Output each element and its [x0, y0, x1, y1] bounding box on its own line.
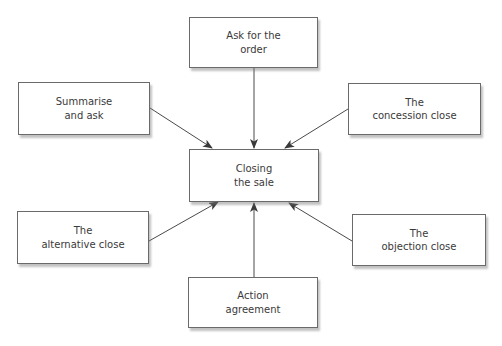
node-label-line: alternative close [41, 238, 124, 252]
node-objection-close: The objection close [352, 214, 486, 266]
node-concession-close: The concession close [348, 83, 481, 135]
node-label-line: Ask for the [226, 29, 280, 43]
node-label-line: Closing [236, 162, 273, 176]
node-label-line: The [405, 96, 424, 110]
node-action-agreement: Action agreement [188, 277, 318, 328]
node-label-line: order [240, 43, 267, 57]
node-label-line: The [410, 227, 429, 241]
closing-techniques-diagram: Closing the sale Ask for the order Summa… [0, 0, 502, 346]
node-label-line: concession close [372, 109, 456, 123]
node-label-line: Action [237, 289, 268, 303]
node-label-line: Summarise [56, 95, 113, 109]
node-alternative-close: The alternative close [17, 211, 149, 264]
arrow-summarise-to-closing [150, 108, 212, 148]
node-summarise-and-ask: Summarise and ask [18, 82, 150, 135]
arrow-alternative-to-closing [149, 202, 218, 241]
node-label-line: the sale [234, 176, 274, 190]
arrow-objection-to-closing [289, 203, 352, 241]
node-label-line: and ask [64, 109, 103, 123]
node-label-line: agreement [226, 303, 281, 317]
node-ask-for-the-order: Ask for the order [189, 17, 318, 68]
node-label-line: The [74, 224, 93, 238]
center-node-closing-the-sale: Closing the sale [189, 149, 319, 202]
node-label-line: objection close [382, 240, 457, 254]
arrow-concession-to-closing [285, 109, 348, 148]
